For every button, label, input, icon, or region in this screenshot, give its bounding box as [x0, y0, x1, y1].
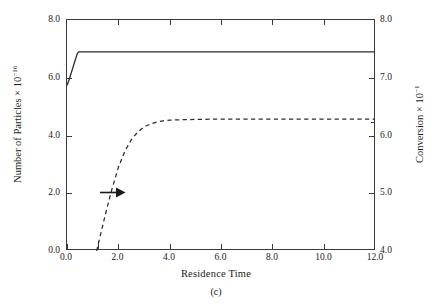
figure-caption: (c) — [0, 286, 432, 297]
y-right-tick-label-6: 6.0 — [380, 129, 392, 140]
y-axis-right-title-text: Conversion × 10 — [414, 93, 425, 163]
x-tick-label-4: 4.0 — [163, 252, 175, 263]
x-tick-label-10: 10.0 — [315, 252, 332, 263]
x-tick-label-8: 8.0 — [266, 252, 278, 263]
y-left-tick-label-4: 4.0 — [48, 129, 60, 140]
figure-panel-c: 0.0 2.0 4.0 6.0 8.0 10.0 12.0 8.0 6.0 4.… — [0, 0, 432, 308]
y-left-tick-label-6: 6.0 — [48, 71, 60, 82]
conversion-arrow-annotation — [100, 188, 126, 198]
y-axis-left-title-exponent: −16 — [11, 66, 19, 77]
y-axis-right-title-exponent: −1 — [413, 85, 421, 93]
solid-curve-number-of-particles — [67, 52, 375, 86]
curves-svg — [67, 20, 376, 251]
plot-frame — [66, 19, 375, 250]
y-left-tick-label-8: 8.0 — [48, 14, 60, 25]
x-tick-label-0: 0.0 — [60, 252, 72, 263]
y-right-tick-label-7: 7.0 — [380, 71, 392, 82]
y-axis-left-title: Number of Particles × 10−16 — [11, 24, 24, 224]
y-right-tick-label-8: 8.0 — [380, 14, 392, 25]
x-tick-label-6: 6.0 — [215, 252, 227, 263]
y-right-tick-label-4: 4.0 — [380, 245, 392, 256]
y-axis-right-title: Conversion × 10−1 — [413, 24, 426, 224]
y-left-tick-label-0: 0.0 — [48, 245, 60, 256]
y-left-tick-label-2: 2.0 — [48, 187, 60, 198]
x-tick-label-2: 2.0 — [112, 252, 124, 263]
y-right-tick-label-5: 5.0 — [380, 187, 392, 198]
x-axis-title: Residence Time — [0, 268, 432, 279]
dashed-curve-conversion — [97, 119, 375, 251]
y-axis-left-title-text: Number of Particles × 10 — [12, 77, 23, 183]
